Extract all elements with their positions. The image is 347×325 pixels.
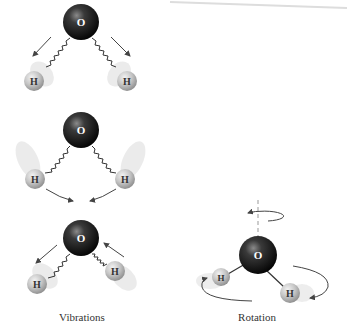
rotation-molecule: O H H	[196, 200, 328, 303]
bond-spring-icon	[92, 254, 107, 266]
arrow-icon	[46, 189, 73, 201]
arrow-icon	[90, 189, 116, 201]
bond-spring-icon	[45, 146, 70, 173]
bond-spring-icon	[46, 38, 70, 67]
rotation-caption: Rotation	[207, 311, 307, 323]
hydrogen-label: H	[123, 76, 131, 87]
water-molecule-motions-diagram: O H H O H H O H H	[0, 0, 347, 325]
vibrations-caption: Vibrations	[32, 311, 132, 323]
page-edge-line	[170, 2, 347, 8]
arrow-icon	[36, 245, 57, 263]
oxygen-label: O	[254, 249, 263, 261]
arrow-icon	[111, 37, 130, 56]
hydrogen-label: H	[30, 76, 38, 87]
bond-spring-icon	[92, 38, 116, 67]
hydrogen-label: H	[217, 273, 224, 283]
bond-spring-icon	[92, 146, 116, 173]
oxygen-label: O	[77, 232, 86, 244]
bond-line	[266, 270, 284, 287]
rotation-arrow-icon	[248, 211, 284, 221]
hydrogen-label: H	[121, 174, 129, 185]
vibration-molecule-symmetric-stretch: O H H	[24, 4, 137, 91]
oxygen-label: O	[77, 16, 86, 28]
vibration-molecule-asymmetric-stretch: O H H	[27, 220, 142, 296]
arrow-icon	[104, 243, 124, 257]
oxygen-label: O	[77, 124, 86, 136]
hydrogen-label: H	[111, 266, 119, 277]
hydrogen-label: H	[31, 174, 39, 185]
vibration-molecule-bending: O H H	[10, 112, 150, 201]
hydrogen-label: H	[286, 288, 294, 299]
arrow-icon	[33, 37, 51, 56]
hydrogen-label: H	[33, 279, 41, 290]
